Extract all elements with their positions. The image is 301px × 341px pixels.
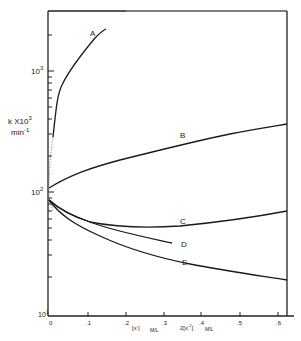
y-axis-labels: 103 102 101	[31, 65, 50, 318]
curve-d: D	[49, 200, 187, 249]
extrapolation-dots	[49, 137, 53, 210]
curve-b: B	[49, 124, 287, 188]
svg-text:.4: .4	[199, 320, 205, 326]
y-axis-title: k X103 min-1	[8, 115, 32, 137]
svg-text:min-1: min-1	[11, 127, 30, 137]
curve-label-c: C	[180, 217, 186, 226]
curve-label-b: B	[180, 131, 185, 140]
y-tick-100: 102	[31, 186, 44, 197]
x-axis-labels: 0 .1 .2 .3 .4 .5 .6	[49, 320, 282, 326]
svg-text:.6: .6	[276, 320, 282, 326]
svg-text:k X103: k X103	[8, 115, 32, 126]
curve-e: E	[49, 200, 287, 280]
curve-c: C	[49, 200, 287, 227]
kinetics-chart: 103 102 101 k X103 min-1 0 .1 .2 .3 .4 .…	[0, 0, 301, 341]
plot-frame	[48, 11, 294, 316]
svg-text:.3: .3	[162, 320, 168, 326]
svg-text:.2: .2	[124, 320, 130, 326]
svg-text:[x-]: [x-]	[132, 323, 140, 331]
y-axis-ticks	[48, 35, 54, 277]
y-tick-1000: 103	[31, 65, 44, 76]
svg-text:M/L: M/L	[205, 326, 214, 332]
svg-text:M/L: M/L	[150, 327, 159, 333]
curve-label-e: E	[182, 258, 187, 267]
svg-text:2[x-2]: 2[x-2]	[180, 323, 194, 331]
curve-label-d: D	[181, 240, 187, 249]
svg-text:.5: .5	[237, 320, 243, 326]
svg-text:0: 0	[49, 320, 53, 326]
curve-label-a: A	[90, 29, 96, 38]
svg-text:.1: .1	[86, 320, 92, 326]
curve-a: A	[53, 29, 106, 137]
